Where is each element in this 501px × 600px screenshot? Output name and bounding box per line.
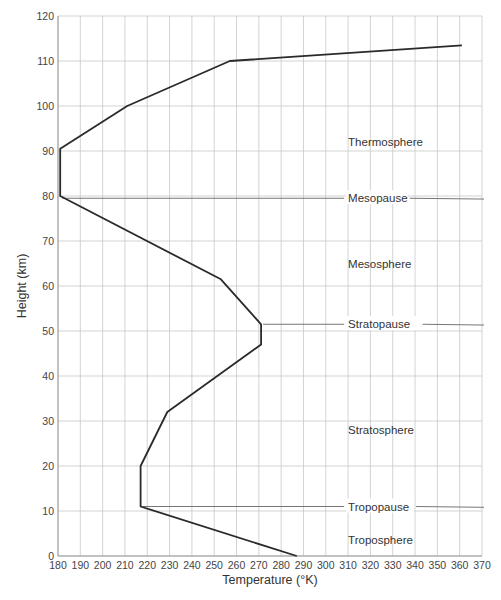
- boundary-label: Stratopause: [348, 318, 410, 330]
- x-tick-label: 200: [94, 559, 112, 571]
- boundary-label: Tropopause: [348, 501, 409, 513]
- boundary-line: [423, 324, 484, 325]
- y-tick-label: 20: [42, 460, 54, 472]
- boundary-line: [410, 198, 484, 199]
- x-tick-label: 310: [339, 559, 357, 571]
- boundary-label: Mesopause: [348, 192, 407, 204]
- x-tick-label: 190: [72, 559, 90, 571]
- x-tick-label: 220: [138, 559, 156, 571]
- x-tick-label: 270: [250, 559, 268, 571]
- y-tick-label: 60: [42, 280, 54, 292]
- x-tick-label: 210: [116, 559, 134, 571]
- x-axis-label: Temperature (°K): [222, 573, 317, 587]
- x-tick-label: 340: [406, 559, 424, 571]
- boundary-lines: [62, 198, 484, 507]
- x-tick-label: 330: [384, 559, 402, 571]
- layer-label: Thermosphere: [348, 136, 423, 148]
- x-tick-label: 370: [473, 559, 491, 571]
- y-tick-label: 100: [36, 100, 54, 112]
- temperature-profile-line: [60, 45, 462, 556]
- x-tick-label: 320: [362, 559, 380, 571]
- x-tick-label: 350: [429, 559, 447, 571]
- grid: [58, 16, 482, 556]
- boundary-line: [416, 507, 484, 508]
- x-axis-ticks: 1801902002102202302402502602702802903003…: [49, 559, 491, 571]
- y-axis-ticks: 0102030405060708090100110120: [36, 10, 54, 562]
- y-tick-label: 90: [42, 145, 54, 157]
- x-tick-label: 300: [317, 559, 335, 571]
- x-tick-label: 250: [205, 559, 223, 571]
- x-tick-label: 290: [295, 559, 313, 571]
- x-tick-label: 280: [272, 559, 290, 571]
- layer-labels: ThermosphereMesopauseMesosphereStratopau…: [346, 136, 423, 546]
- y-tick-label: 10: [42, 505, 54, 517]
- y-tick-label: 30: [42, 415, 54, 427]
- layer-label: Stratosphere: [348, 424, 414, 436]
- y-tick-label: 70: [42, 235, 54, 247]
- layer-label: Troposphere: [348, 534, 413, 546]
- x-tick-label: 240: [183, 559, 201, 571]
- y-tick-label: 0: [48, 550, 54, 562]
- y-tick-label: 50: [42, 325, 54, 337]
- y-axis-label: Height (km): [15, 254, 29, 319]
- x-tick-label: 360: [451, 559, 469, 571]
- y-tick-label: 110: [37, 55, 54, 67]
- y-tick-label: 40: [42, 370, 54, 382]
- x-tick-label: 260: [228, 559, 246, 571]
- chart-canvas: 1801902002102202302402502602702802903003…: [0, 0, 501, 600]
- y-tick-label: 120: [36, 10, 54, 22]
- layer-label: Mesosphere: [348, 258, 411, 270]
- y-tick-label: 80: [42, 190, 54, 202]
- x-tick-label: 230: [161, 559, 179, 571]
